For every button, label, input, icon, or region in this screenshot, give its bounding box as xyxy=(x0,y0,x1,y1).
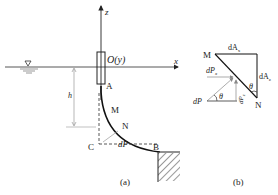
curved-surface xyxy=(101,86,160,152)
z-axis-label: z xyxy=(104,7,109,17)
point-n-label-b: N xyxy=(255,100,262,110)
point-m-label-b: M xyxy=(203,50,211,60)
theta-arc-p xyxy=(214,95,217,101)
dp-arrow xyxy=(103,131,118,142)
point-m-label: M xyxy=(111,105,119,115)
origin-label: O(y) xyxy=(107,54,126,66)
caption-a: (a) xyxy=(120,177,130,187)
figure-b: M N dAx dAz θ dPx dP θ dPz (b) xyxy=(193,43,272,187)
x-axis-label: x xyxy=(173,56,178,66)
ground-hatch xyxy=(158,153,180,181)
point-a-label: A xyxy=(106,81,113,91)
daz-label: dAz xyxy=(259,72,272,82)
theta-arc-n xyxy=(251,91,257,92)
point-n-label: N xyxy=(122,121,129,131)
point-c-label: C xyxy=(88,142,94,152)
caption-b: (b) xyxy=(233,177,244,187)
figure-a: x z O(y) A h M N B C xyxy=(5,6,180,187)
depth-label: h xyxy=(68,91,72,100)
dpx-label: dPx xyxy=(206,66,218,76)
point-b-label: B xyxy=(153,142,159,152)
dp-label: dP xyxy=(118,139,129,149)
dpz-label: dPz xyxy=(237,94,246,104)
theta-label-n: θ xyxy=(249,82,253,91)
theta-label-p: θ xyxy=(219,92,223,101)
diagram-canvas: x z O(y) A h M N B C xyxy=(0,0,278,195)
dax-label: dAx xyxy=(228,43,241,53)
dp-label-b: dP xyxy=(193,97,202,106)
